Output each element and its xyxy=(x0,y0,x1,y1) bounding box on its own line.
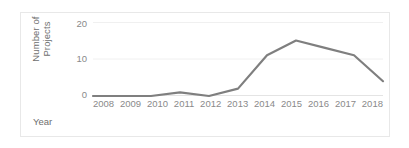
y-tick-label-0: 0 xyxy=(65,90,87,100)
gridlines xyxy=(93,23,383,96)
x-tick-label-2018: 2018 xyxy=(362,99,383,113)
x-tick-label-2015: 2015 xyxy=(281,99,302,113)
y-tick-label-10: 10 xyxy=(65,54,87,64)
plot-area xyxy=(93,22,383,96)
x-tick-label-2008: 2008 xyxy=(93,99,114,113)
line-chart-svg xyxy=(93,22,383,96)
x-axis-title: Year xyxy=(33,117,52,127)
y-axis-tick-labels: 20 10 0 xyxy=(61,13,87,138)
y-axis-title-line-2: Projects xyxy=(42,21,53,56)
x-tick-label-2009: 2009 xyxy=(120,99,141,113)
y-axis-title: Number of Projects xyxy=(22,0,62,78)
x-tick-label-2010: 2010 xyxy=(147,99,168,113)
series-line-number-of-projects xyxy=(93,41,383,97)
x-tick-label-2017: 2017 xyxy=(335,99,356,113)
y-tick-label-20: 20 xyxy=(65,19,87,29)
x-tick-label-2014: 2014 xyxy=(254,99,275,113)
x-tick-label-2011: 2011 xyxy=(174,99,194,113)
x-tick-label-2013: 2013 xyxy=(227,99,248,113)
x-tick-label-2012: 2012 xyxy=(200,99,221,113)
x-tick-label-2016: 2016 xyxy=(308,99,329,113)
x-axis-tick-labels: 2008 2009 2010 2011 2012 2013 2014 2015 … xyxy=(93,99,383,113)
chart-card: Number of Projects 20 10 0 2008 2009 201… xyxy=(20,12,390,137)
